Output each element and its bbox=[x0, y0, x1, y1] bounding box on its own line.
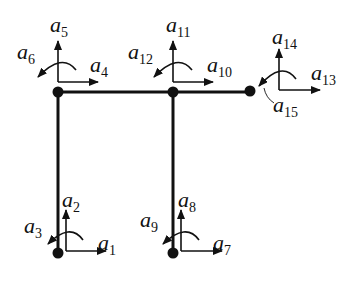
dof-group-node-3 bbox=[38, 41, 98, 82]
label-a4: a4 bbox=[90, 52, 108, 80]
rotation-arrow-icon bbox=[259, 71, 296, 86]
label-a6: a6 bbox=[17, 39, 35, 67]
dof-labels: a1 a2 a3 a4 a5 a6 a7 a8 bbox=[17, 12, 336, 258]
label-a7: a7 bbox=[213, 230, 231, 258]
node-top-middle bbox=[168, 87, 179, 98]
label-a3: a3 bbox=[24, 213, 42, 241]
label-a8: a8 bbox=[178, 187, 196, 215]
node-top-left bbox=[53, 87, 64, 98]
label-a13: a13 bbox=[311, 60, 336, 88]
node-bottom-left bbox=[53, 248, 64, 259]
label-a10: a10 bbox=[207, 52, 232, 80]
label-a14: a14 bbox=[272, 24, 297, 52]
label-a2: a2 bbox=[62, 187, 80, 215]
diagram-svg: a1 a2 a3 a4 a5 a6 a7 a8 bbox=[0, 0, 356, 295]
label-a5: a5 bbox=[50, 12, 68, 40]
frame-diagram: a1 a2 a3 a4 a5 a6 a7 a8 bbox=[0, 0, 356, 295]
label-a15: a15 bbox=[273, 92, 298, 120]
label-a9: a9 bbox=[140, 207, 158, 235]
dof-group-node-4 bbox=[154, 41, 213, 82]
node-bottom-middle bbox=[168, 248, 179, 259]
rotation-arrow-icon bbox=[38, 62, 76, 77]
label-a11: a11 bbox=[166, 12, 190, 40]
label-a12: a12 bbox=[128, 39, 153, 67]
node-right-end bbox=[245, 86, 256, 97]
label-a1: a1 bbox=[98, 230, 116, 258]
